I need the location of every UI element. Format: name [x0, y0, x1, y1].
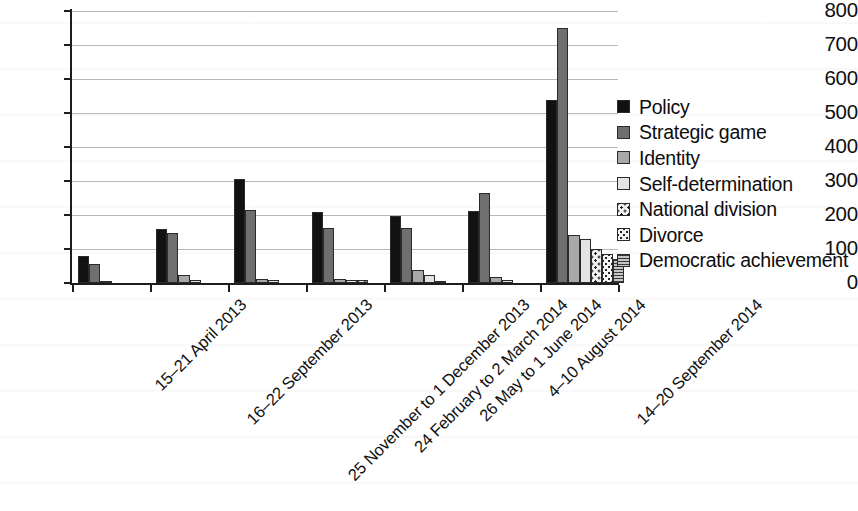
bar-strategic-game [89, 264, 100, 283]
y-tick-label: 800 [800, 0, 858, 21]
bar-divorce [602, 254, 613, 283]
bar-group [540, 11, 618, 283]
legend-label: National division [639, 199, 777, 219]
bar-policy [156, 229, 167, 283]
legend-item-identity: Identity [617, 145, 855, 171]
y-tick-label: 700 [800, 34, 858, 55]
legend-item-divorce: Divorce [617, 222, 855, 248]
x-tick-mark [618, 285, 620, 292]
bar-strategic-game [401, 228, 412, 283]
legend-swatch-icon [617, 100, 630, 113]
bar-identity [568, 235, 579, 283]
bar-identity [178, 275, 189, 284]
x-tick-mark [384, 285, 386, 292]
legend-label: Democratic achievement [639, 250, 848, 270]
x-axis-category-label: 16–22 September 2013 [244, 296, 376, 428]
legend-swatch-icon [617, 203, 630, 216]
legend-label: Self-determination [639, 174, 793, 194]
legend-label: Strategic game [639, 122, 767, 142]
bar-strategic-game [167, 233, 178, 283]
bar-group [72, 11, 150, 283]
bar-strategic-game [323, 228, 334, 283]
legend-label: Policy [639, 97, 690, 117]
bar-identity [412, 270, 423, 283]
y-axis-line [70, 9, 72, 285]
bar-group [306, 11, 384, 283]
x-axis-category-label: 15–21 April 2013 [152, 296, 250, 394]
legend-label: Divorce [639, 225, 703, 245]
x-tick-mark [306, 285, 308, 292]
bar-self-determination [580, 239, 591, 283]
legend-item-national-division: National division [617, 196, 855, 222]
bar-group [228, 11, 306, 283]
x-tick-mark [228, 285, 230, 292]
bar-national-division [591, 249, 602, 283]
legend-item-self-determination: Self-determination [617, 171, 855, 197]
y-tick-label: 0 [800, 272, 858, 293]
bar-policy [234, 179, 245, 283]
bar-policy [312, 212, 323, 283]
bar-self-determination [424, 275, 435, 284]
bar-group [462, 11, 540, 283]
x-axis-category-label: 24 February to 2 March 2014 [411, 296, 571, 456]
legend-item-policy: Policy [617, 94, 855, 120]
x-axis-line [70, 283, 619, 285]
x-tick-mark [150, 285, 152, 292]
bar-policy [78, 256, 89, 283]
bar-policy [468, 211, 479, 283]
legend-label: Identity [639, 148, 700, 168]
bar-policy [390, 216, 401, 283]
bar-group [150, 11, 228, 283]
chart-legend: PolicyStrategic gameIdentitySelf-determi… [617, 94, 855, 273]
legend-swatch-icon [617, 151, 630, 164]
x-tick-mark [540, 285, 542, 292]
bar-strategic-game [245, 210, 256, 283]
bar-policy [546, 100, 557, 283]
legend-swatch-icon [617, 228, 630, 241]
y-tick-label: 600 [800, 68, 858, 89]
x-tick-mark [462, 285, 464, 292]
legend-item-democratic-achievement: Democratic achievement [617, 248, 855, 274]
x-axis-category-label: 14–20 September 2014 [634, 296, 766, 428]
legend-swatch-icon [617, 126, 630, 139]
legend-swatch-icon [617, 177, 630, 190]
legend-swatch-icon [617, 254, 630, 267]
legend-item-strategic-game: Strategic game [617, 120, 855, 146]
x-tick-mark [72, 285, 74, 292]
bar-chart: 8007006005004003002001000 15–21 April 20… [0, 0, 858, 511]
bar-strategic-game [479, 193, 490, 283]
plot-area [72, 11, 618, 283]
bar-strategic-game [557, 28, 568, 283]
bar-group [384, 11, 462, 283]
